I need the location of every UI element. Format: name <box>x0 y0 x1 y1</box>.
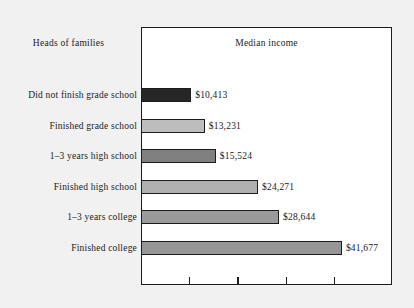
bar-value-label: $24,271 <box>262 179 294 195</box>
bar-row: Finished college$41,677 <box>0 240 414 256</box>
group-axis-label: Heads of families <box>0 38 137 48</box>
bar <box>141 149 216 163</box>
category-label: 1–3 years college <box>67 209 137 225</box>
chart-title: Median income <box>141 38 392 48</box>
bar <box>141 241 342 255</box>
category-label: Did not finish grade school <box>28 87 137 103</box>
bar-value-label: $13,231 <box>209 118 241 134</box>
bar-row: 1–3 years college$28,644 <box>0 209 414 225</box>
bar <box>141 210 279 224</box>
bar <box>141 180 258 194</box>
category-label: Finished grade school <box>49 118 137 134</box>
bar-value-label: $15,524 <box>220 148 252 164</box>
bar-value-label: $10,413 <box>195 87 227 103</box>
bar-row: Finished grade school$13,231 <box>0 118 414 134</box>
category-label: Finished high school <box>54 179 137 195</box>
axis-tick <box>334 277 335 285</box>
bar-row: 1–3 years high school$15,524 <box>0 148 414 164</box>
bar <box>141 119 205 133</box>
axis-tick <box>286 277 287 285</box>
bar-value-label: $28,644 <box>283 209 315 225</box>
category-label: Finished college <box>71 240 137 256</box>
bar <box>141 88 191 102</box>
bar-value-label: $41,677 <box>346 240 378 256</box>
axis-tick <box>189 277 190 285</box>
axis-tick <box>237 277 238 285</box>
category-label: 1–3 years high school <box>50 148 137 164</box>
bar-row: Did not finish grade school$10,413 <box>0 87 414 103</box>
figure: Heads of families Median income Did not … <box>0 0 414 308</box>
bar-row: Finished high school$24,271 <box>0 179 414 195</box>
